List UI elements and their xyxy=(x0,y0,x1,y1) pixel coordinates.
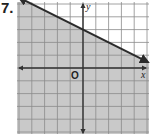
origin-label: O xyxy=(71,70,79,81)
plot-area: x y O xyxy=(0,0,151,137)
coordinate-plane: x y O xyxy=(0,0,151,137)
x-axis-label: x xyxy=(140,69,146,80)
y-axis-label: y xyxy=(85,1,91,12)
